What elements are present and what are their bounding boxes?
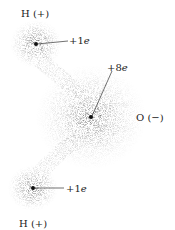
hydrogen-top-label: H (+) bbox=[21, 9, 49, 19]
hydrogen-bottom-charge: +1e bbox=[66, 184, 87, 194]
oxygen-charge: +8e bbox=[107, 63, 128, 73]
charge-value: +1 bbox=[69, 35, 84, 46]
charge-unit: e bbox=[84, 35, 90, 46]
hydrogen-top-charge: +1e bbox=[69, 36, 90, 46]
charge-unit: e bbox=[81, 183, 87, 194]
charge-unit: e bbox=[122, 62, 128, 73]
charge-value: +8 bbox=[107, 62, 122, 73]
hydrogen-bottom-label: H (+) bbox=[19, 219, 47, 229]
oxygen-label: O (−) bbox=[136, 113, 164, 123]
charge-value: +1 bbox=[66, 183, 81, 194]
